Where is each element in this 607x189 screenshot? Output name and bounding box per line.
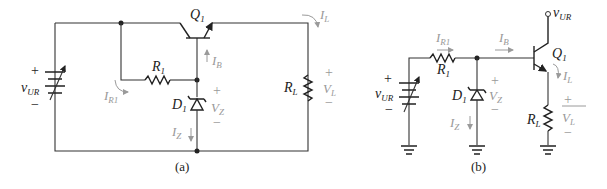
node-a3 bbox=[195, 149, 200, 154]
label-q1-a: Q1 bbox=[190, 7, 205, 24]
source-plus-b: + bbox=[384, 71, 392, 86]
zener-diode-a bbox=[191, 99, 203, 110]
wire-source-b bbox=[409, 58, 430, 145]
resistor-r1-a bbox=[145, 76, 170, 84]
transistor-collector-b bbox=[534, 16, 548, 52]
arrow-ir1-a bbox=[115, 80, 128, 92]
source-minus-b: − bbox=[385, 102, 393, 117]
label-ib-b: IB bbox=[498, 30, 509, 47]
label-ib-a: IB bbox=[211, 53, 222, 70]
caption-b: (b) bbox=[471, 159, 486, 174]
ground-icon-b2 bbox=[469, 146, 485, 154]
transistor-collector-a bbox=[180, 23, 190, 38]
label-rl-a: RL bbox=[283, 80, 298, 97]
wire-outer-a bbox=[55, 23, 308, 151]
vl-plus-a: + bbox=[325, 65, 333, 80]
vz-minus-a: − bbox=[213, 115, 221, 130]
source-plus-a: + bbox=[31, 63, 39, 78]
vz-minus-b: − bbox=[491, 102, 499, 117]
wire-r1-a bbox=[121, 23, 145, 80]
label-d1-b: D1 bbox=[451, 88, 467, 105]
label-il-a: IL bbox=[319, 7, 329, 24]
transistor-emitter-b bbox=[534, 64, 546, 71]
label-vur-b: vUR bbox=[375, 86, 394, 103]
label-il-b: IL bbox=[562, 68, 572, 85]
label-r1-b: R1 bbox=[436, 62, 450, 79]
vl-minus-b: − bbox=[564, 125, 572, 140]
zener-diode-b bbox=[471, 90, 483, 100]
arrow-il-b bbox=[553, 64, 558, 78]
label-iz-b: IZ bbox=[449, 115, 460, 132]
vz-plus-b: + bbox=[491, 73, 499, 88]
label-vur-terminal-b: vUR bbox=[553, 5, 572, 22]
label-rl-b: RL bbox=[526, 112, 541, 129]
resistor-r1-b bbox=[430, 54, 455, 62]
vz-plus-a: + bbox=[213, 83, 221, 98]
source-minus-a: − bbox=[31, 97, 39, 112]
label-vur-a: vUR bbox=[21, 80, 40, 97]
transistor-emitter-a bbox=[204, 23, 212, 38]
label-r1-a: R1 bbox=[151, 59, 165, 76]
label-iz-a: IZ bbox=[171, 124, 182, 141]
circuit-a bbox=[45, 15, 318, 154]
supply-terminal-b bbox=[546, 12, 551, 17]
label-ir1-a: IR1 bbox=[103, 88, 118, 105]
vl-plus-b: + bbox=[564, 92, 572, 107]
resistor-rl-b bbox=[544, 105, 552, 131]
caption-a: (a) bbox=[175, 159, 189, 174]
ground-icon-b1 bbox=[401, 146, 417, 154]
label-q1-b: Q1 bbox=[552, 46, 567, 63]
vl-minus-a: − bbox=[325, 95, 333, 110]
arrow-il-a bbox=[302, 15, 318, 27]
label-ir1-b: IR1 bbox=[435, 30, 450, 47]
ground-icon-b3 bbox=[540, 146, 556, 154]
label-d1-a: D1 bbox=[171, 97, 187, 114]
